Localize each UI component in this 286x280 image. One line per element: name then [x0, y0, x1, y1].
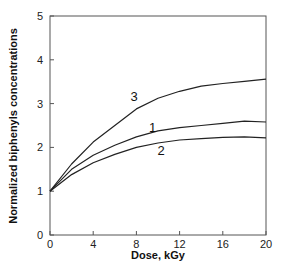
curve-label-3: 3 — [131, 89, 138, 104]
x-tick-label: 4 — [90, 238, 96, 250]
x-axis-label: Dose, kGy — [131, 249, 186, 261]
y-tick-label: 2 — [37, 141, 43, 153]
x-tick-label: 16 — [217, 238, 229, 250]
x-tick-label: 20 — [260, 238, 272, 250]
plot-frame — [50, 16, 266, 235]
data-curves — [50, 79, 266, 191]
curve-label-1: 1 — [149, 120, 156, 135]
y-tick-label: 0 — [37, 229, 43, 241]
curve-3 — [50, 79, 266, 191]
curve-label-2: 2 — [158, 143, 165, 158]
y-tick-label: 1 — [37, 185, 43, 197]
y-tick-label: 3 — [37, 98, 43, 110]
line-chart: 048121620012345 123 Dose, kGy Normalized… — [0, 0, 286, 280]
x-tick-label: 0 — [47, 238, 53, 250]
y-axis-label: Normalized biphenyls concentrations — [7, 28, 19, 224]
y-tick-label: 5 — [37, 10, 43, 22]
y-tick-label: 4 — [37, 54, 43, 66]
